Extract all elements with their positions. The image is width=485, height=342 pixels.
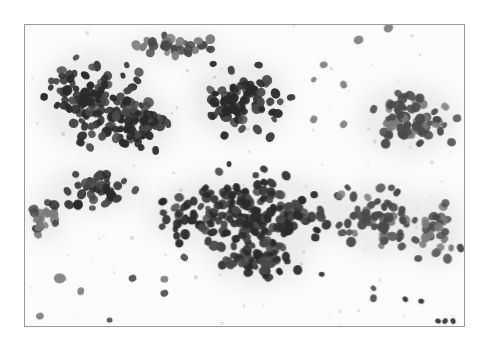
scattered-nucleus — [259, 164, 269, 174]
debris-speck — [348, 90, 350, 92]
debris-speck — [370, 63, 373, 66]
debris-speck — [410, 34, 414, 38]
scattered-nucleus — [434, 318, 441, 325]
scattered-nucleus — [35, 312, 45, 321]
debris-speck — [418, 53, 422, 57]
debris-speck — [185, 69, 189, 73]
scattered-nucleus — [160, 276, 168, 283]
scattered-nucleus — [441, 317, 449, 325]
debris-speck — [285, 134, 286, 135]
debris-speck — [366, 164, 370, 167]
debris-speck — [36, 121, 39, 124]
debris-speck — [175, 106, 178, 110]
scattered-nucleus — [159, 289, 169, 298]
scattered-nucleus — [309, 114, 319, 124]
scattered-nucleus — [318, 271, 325, 277]
debris-speck — [98, 237, 101, 240]
debris-speck — [440, 180, 443, 183]
debris-speck — [141, 203, 143, 205]
scattered-nucleus — [370, 284, 378, 292]
debris-speck — [74, 314, 76, 316]
debris-speck — [378, 278, 382, 282]
debris-speck — [91, 260, 93, 262]
debris-speck — [182, 74, 184, 76]
scattered-nucleus — [418, 298, 425, 305]
debris-speck — [242, 303, 246, 308]
scattered-nucleus — [179, 252, 189, 262]
debris-speck — [247, 150, 251, 154]
debris-speck — [339, 323, 341, 325]
debris-speck — [133, 164, 136, 166]
debris-speck — [419, 160, 420, 161]
debris-speck — [113, 271, 116, 274]
cytology-micrograph — [25, 25, 464, 326]
scattered-nucleus — [370, 294, 377, 302]
debris-speck — [67, 254, 70, 257]
debris-speck — [321, 164, 323, 166]
debris-speck — [339, 310, 342, 314]
debris-speck — [172, 171, 176, 175]
debris-speck — [429, 160, 434, 165]
debris-speck — [219, 321, 224, 325]
debris-speck — [164, 253, 167, 257]
scattered-nucleus — [310, 76, 318, 84]
debris-speck — [85, 30, 90, 35]
debris-speck — [28, 285, 32, 289]
debris-speck — [103, 235, 105, 237]
scattered-nucleus — [401, 295, 409, 303]
debris-speck — [194, 275, 198, 279]
scattered-nucleus — [450, 317, 457, 324]
scattered-nucleus — [227, 161, 232, 167]
debris-speck — [31, 77, 34, 81]
debris-speck — [187, 169, 188, 170]
debris-speck — [284, 105, 286, 108]
debris-speck — [328, 317, 330, 319]
scattered-nucleus — [338, 119, 348, 129]
debris-speck — [329, 67, 333, 71]
scattered-nucleus — [54, 273, 66, 283]
debris-speck — [328, 104, 330, 106]
debris-speck — [69, 49, 71, 51]
debris-speck — [311, 128, 316, 132]
scattered-nucleus — [382, 25, 395, 34]
nucleus — [89, 205, 96, 211]
nucleus — [72, 70, 78, 77]
scattered-nucleus — [352, 34, 365, 46]
scattered-nucleus — [77, 287, 85, 296]
debris-speck — [451, 315, 454, 318]
scattered-nucleus — [339, 80, 348, 90]
debris-speck — [291, 25, 296, 28]
debris-speck — [129, 235, 135, 241]
debris-speck — [397, 81, 399, 83]
scattered-nucleus — [106, 317, 112, 322]
debris-speck — [357, 308, 361, 312]
nucleus — [194, 37, 203, 44]
micrograph-frame: Grayscale cytology micrograph showing cl… — [24, 24, 465, 327]
nucleus — [400, 220, 407, 225]
nucleus — [343, 183, 352, 192]
scattered-nucleus — [128, 274, 138, 283]
debris-speck — [449, 150, 452, 153]
debris-speck — [262, 304, 265, 307]
debris-speck — [402, 315, 404, 317]
scattered-nucleus — [319, 61, 328, 69]
